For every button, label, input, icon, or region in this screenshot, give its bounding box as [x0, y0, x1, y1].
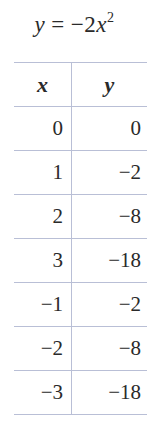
- table-row: 3 −18: [14, 239, 147, 283]
- table-header-row: x y: [14, 63, 147, 107]
- cell-y: −8: [72, 195, 147, 238]
- equation-variable: x: [96, 12, 107, 37]
- cell-x: −2: [14, 327, 72, 370]
- equation-equals: =: [51, 12, 64, 37]
- cell-x: 0: [14, 107, 72, 150]
- equation-exponent: 2: [107, 10, 115, 25]
- cell-x: 2: [14, 195, 72, 238]
- cell-y: 0: [72, 107, 147, 150]
- cell-x: −3: [14, 371, 72, 414]
- cell-y: −18: [72, 239, 147, 282]
- table-row: 0 0: [14, 107, 147, 151]
- table-row: 1 −2: [14, 151, 147, 195]
- header-y: y: [72, 63, 147, 106]
- cell-y: −8: [72, 327, 147, 370]
- equation-lhs: y: [35, 12, 46, 37]
- cell-x: −1: [14, 283, 72, 326]
- cell-x: 3: [14, 239, 72, 282]
- equation-coefficient: −2: [71, 12, 96, 37]
- header-x: x: [14, 63, 72, 106]
- table-row: −2 −8: [14, 327, 147, 371]
- cell-x: 1: [14, 151, 72, 194]
- table-row: −3 −18: [14, 371, 147, 415]
- values-table: x y 0 0 1 −2 2 −8 3 −18 −1 −2 −2 −8 −3 −…: [14, 62, 147, 415]
- table-row: 2 −8: [14, 195, 147, 239]
- cell-y: −2: [72, 283, 147, 326]
- cell-y: −2: [72, 151, 147, 194]
- equation-title: y=−2x2: [0, 10, 149, 40]
- cell-y: −18: [72, 371, 147, 414]
- table-row: −1 −2: [14, 283, 147, 327]
